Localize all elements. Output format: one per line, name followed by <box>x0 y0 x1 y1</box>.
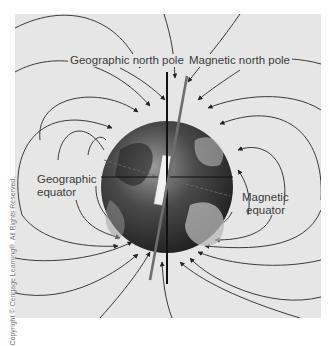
label-geographic-equator-line1: Geographic <box>37 173 96 186</box>
label-geographic-north-pole: Geographic north pole <box>68 54 186 67</box>
label-magnetic-equator: Magnetic equator <box>240 191 291 217</box>
label-geographic-equator-line2: equator <box>37 186 96 199</box>
label-geographic-equator: Geographic equator <box>35 173 98 199</box>
label-magnetic-north-pole: Magnetic north pole <box>187 54 292 67</box>
copyright-notice: Copyright © Cengage Learning®. All Right… <box>9 166 16 346</box>
label-magnetic-equator-line2: equator <box>242 204 289 217</box>
label-magnetic-equator-line1: Magnetic <box>242 191 289 204</box>
